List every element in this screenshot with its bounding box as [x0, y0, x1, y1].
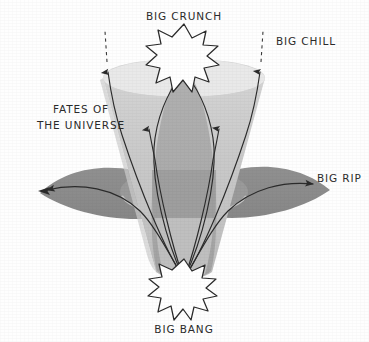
- label-big-chill: BIG CHILL: [276, 35, 336, 47]
- label-big-bang: BIG BANG: [154, 323, 213, 335]
- dashed-right: [261, 31, 263, 62]
- label-fates-line2: THE UNIVERSE: [36, 119, 125, 131]
- cosmic-surfaces: [40, 59, 330, 279]
- label-big-crunch: BIG CRUNCH: [146, 10, 222, 22]
- dashed-left: [105, 31, 107, 62]
- diagram-canvas: BIG CRUNCH BIG CHILL FATES OF THE UNIVER…: [0, 0, 369, 342]
- label-big-rip: BIG RIP: [317, 172, 362, 184]
- fates-of-the-universe-diagram: BIG CRUNCH BIG CHILL FATES OF THE UNIVER…: [0, 0, 369, 342]
- label-fates-line1: FATES OF: [53, 103, 109, 115]
